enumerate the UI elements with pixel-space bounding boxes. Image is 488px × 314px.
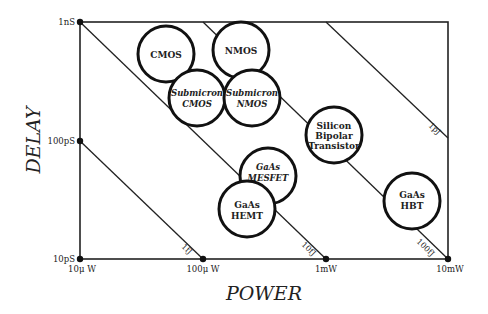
energy-line-1fj bbox=[80, 141, 203, 259]
svg-text:CMOS: CMOS bbox=[182, 99, 212, 109]
y-tick-1ns: 1nS bbox=[58, 17, 75, 27]
svg-text:GaAs: GaAs bbox=[399, 190, 425, 200]
y-tick-100ps: 100pS bbox=[48, 136, 76, 146]
tech-nmos: NMOS bbox=[213, 22, 269, 78]
y-tick-10ps: 10pS bbox=[53, 254, 75, 264]
x-tick-100uw: 100μ W bbox=[186, 264, 219, 274]
axis-dot bbox=[445, 256, 451, 262]
tech-gaas-hemt: GaAs HEMT bbox=[219, 181, 275, 237]
y-axis-title: DELAY bbox=[22, 104, 44, 175]
axis-dot bbox=[323, 256, 329, 262]
x-tick-10mw: 10mW bbox=[436, 264, 464, 274]
svg-text:NMOS: NMOS bbox=[225, 46, 258, 56]
axis-dot bbox=[77, 19, 83, 25]
energy-label-1fj: 1fJ bbox=[180, 242, 194, 256]
tech-submicron-cmos: Submicron CMOS bbox=[169, 70, 225, 126]
svg-text:CMOS: CMOS bbox=[150, 50, 181, 60]
svg-text:NMOS: NMOS bbox=[236, 99, 268, 109]
x-axis-title: POWER bbox=[225, 282, 302, 304]
svg-text:Silicon: Silicon bbox=[317, 121, 352, 131]
energy-label-100fj: 100fJ bbox=[415, 237, 437, 258]
x-tick-10uw: 10μ W bbox=[68, 264, 96, 274]
axis-dot bbox=[77, 138, 83, 144]
svg-text:Transistor: Transistor bbox=[308, 141, 360, 151]
delay-power-diagram: 1fJ 10fJ 100fJ 1pJ 1nS 100pS 10pS 10μ W … bbox=[0, 0, 488, 314]
tech-silicon-bipolar: Silicon Bipolar Transistor bbox=[306, 107, 362, 163]
svg-text:GaAs: GaAs bbox=[234, 200, 260, 210]
tech-submicron-nmos: Submicron NMOS bbox=[224, 70, 280, 126]
svg-text:Bipolar: Bipolar bbox=[315, 131, 353, 141]
svg-text:Submicron: Submicron bbox=[226, 88, 278, 98]
energy-label-10fj: 10fJ bbox=[300, 240, 318, 258]
axis-dot bbox=[77, 256, 83, 262]
svg-text:HEMT: HEMT bbox=[231, 211, 263, 221]
axis-dot bbox=[200, 256, 206, 262]
svg-text:HBT: HBT bbox=[401, 201, 424, 211]
energy-label-1pj: 1pJ bbox=[427, 121, 443, 137]
svg-text:Submicron: Submicron bbox=[171, 88, 223, 98]
tech-gaas-hbt: GaAs HBT bbox=[384, 173, 440, 229]
svg-text:GaAs: GaAs bbox=[256, 162, 280, 172]
energy-line-10fj bbox=[80, 22, 326, 259]
x-tick-1mw: 1mW bbox=[315, 264, 337, 274]
